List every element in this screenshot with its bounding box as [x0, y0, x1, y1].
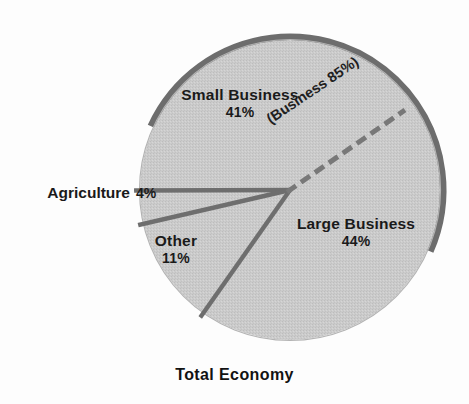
pie-chart: Small Business 41% Large Business 44% Ot…: [0, 0, 469, 404]
slice-percent-agriculture: 4%: [136, 185, 156, 201]
slice-percent-other: 11%: [131, 250, 221, 267]
pie-chart-graphic: [0, 0, 469, 404]
slice-percent-large-business: 44%: [281, 233, 431, 250]
slice-name-other: Other: [131, 232, 221, 250]
slice-label-large-business: Large Business 44%: [281, 215, 431, 250]
slice-name-large-business: Large Business: [281, 215, 431, 233]
chart-title: Total Economy: [0, 366, 469, 384]
slice-name-agriculture: Agriculture: [20, 184, 130, 202]
slice-label-other: Other 11%: [131, 232, 221, 267]
